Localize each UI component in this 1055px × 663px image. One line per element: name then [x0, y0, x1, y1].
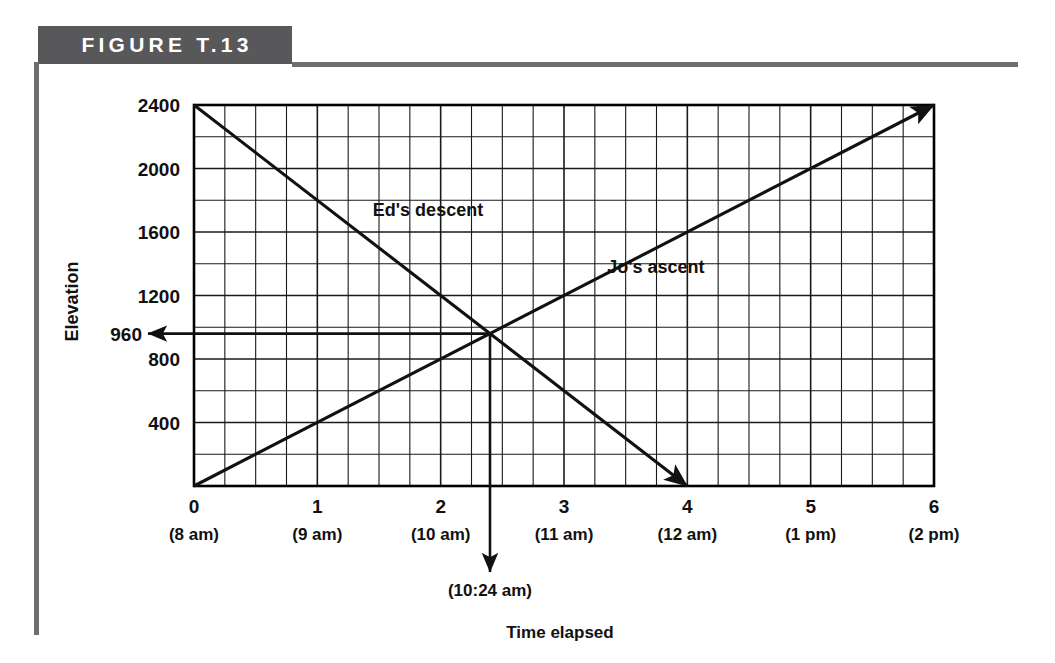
x-tick-label-1: 1 [312, 496, 323, 517]
x-tick-sublabel-1: (9 am) [292, 525, 342, 544]
x-tick-label-0: 0 [189, 496, 200, 517]
chart-series-labels: Ed's descentJo's ascent [373, 200, 705, 277]
chart-x-axis-ticks: 0(8 am)1(9 am)2(10 am)3(11 am)4(12 am)5(… [169, 496, 960, 544]
x-tick-sublabel-4: (12 am) [658, 525, 718, 544]
x-drop-label-1024am: (10:24 am) [448, 581, 532, 600]
series-label-1: Ed's descent [373, 200, 483, 220]
y-tick-label-1: 2000 [138, 159, 180, 180]
x-tick-sublabel-2: (10 am) [411, 525, 471, 544]
y-marker-label-960: 960 [110, 324, 142, 345]
x-tick-label-5: 5 [805, 496, 816, 517]
chart-y-axis-ticks: 2400200016001200800400 [138, 95, 180, 434]
y-tick-label-4: 800 [148, 349, 180, 370]
x-tick-label-3: 3 [559, 496, 570, 517]
chart-x-axis-title: Time elapsed [506, 623, 613, 642]
x-tick-sublabel-5: (1 pm) [785, 525, 836, 544]
y-tick-label-0: 2400 [138, 95, 180, 116]
figure-page: FIGURE T.13 2400200016001200800400 0(8 a… [0, 0, 1055, 663]
y-tick-label-3: 1200 [138, 286, 180, 307]
x-tick-label-2: 2 [435, 496, 446, 517]
y-tick-label-5: 400 [148, 413, 180, 434]
chart-container: 2400200016001200800400 0(8 am)1(9 am)2(1… [0, 0, 1055, 663]
x-tick-label-4: 4 [682, 496, 693, 517]
x-tick-label-6: 6 [929, 496, 940, 517]
y-tick-label-2: 1600 [138, 222, 180, 243]
x-tick-sublabel-3: (11 am) [535, 525, 594, 544]
x-tick-sublabel-6: (2 pm) [909, 525, 960, 544]
chart-y-axis-title: Elevation [62, 261, 82, 341]
elevation-vs-time-chart: 2400200016001200800400 0(8 am)1(9 am)2(1… [0, 0, 1055, 663]
series-label-2: Jo's ascent [607, 257, 704, 277]
x-tick-sublabel-0: (8 am) [169, 525, 219, 544]
